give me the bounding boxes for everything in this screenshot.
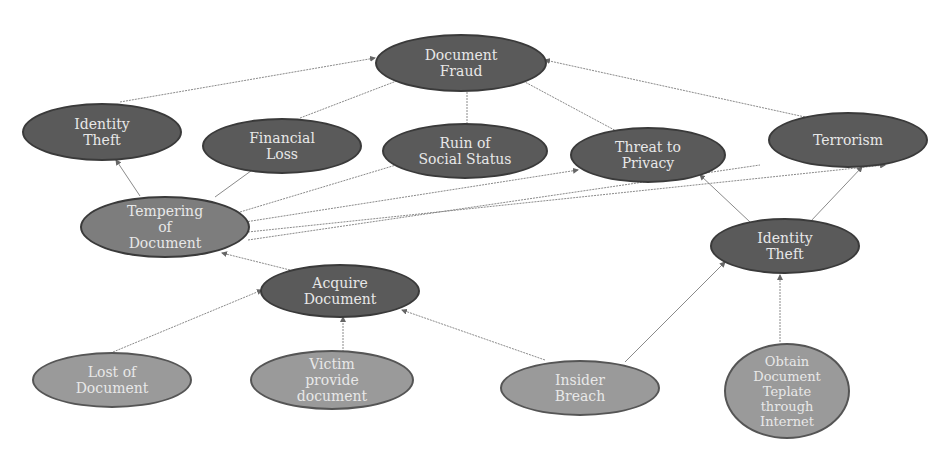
node-obtain-template[interactable]: Obtain Document Teplate through Internet bbox=[724, 343, 850, 439]
edge-threat-to-fraud bbox=[510, 74, 620, 133]
node-label: Lost of Document bbox=[76, 364, 149, 396]
edge-acquire-to-tempering bbox=[222, 253, 290, 270]
node-document-fraud[interactable]: Document Fraud bbox=[375, 34, 547, 92]
node-threat-privacy[interactable]: Threat to Privacy bbox=[570, 127, 726, 183]
edge-tempering-to-financial bbox=[215, 168, 255, 197]
node-lost-document[interactable]: Lost of Document bbox=[32, 352, 192, 408]
node-label: Victim provide document bbox=[297, 356, 367, 404]
node-tempering-document[interactable]: Tempering of Document bbox=[80, 196, 250, 258]
node-label: Threat to Privacy bbox=[615, 139, 681, 171]
edge-insider-to-acquire bbox=[402, 310, 545, 360]
node-label: Obtain Document Teplate through Internet bbox=[753, 354, 821, 429]
node-label: Acquire Document bbox=[304, 275, 377, 307]
node-terrorism[interactable]: Terrorism bbox=[768, 112, 928, 168]
node-label: Terrorism bbox=[813, 132, 883, 148]
node-victim-provide[interactable]: Victim provide document bbox=[250, 350, 414, 410]
edge-identity-mid-to-terrorism bbox=[810, 167, 862, 222]
edge-tempering-to-identity bbox=[116, 160, 140, 196]
node-identity-theft-top[interactable]: Identity Theft bbox=[22, 103, 182, 161]
node-label: Ruin of Social Status bbox=[418, 135, 511, 167]
edge-terrorism-to-fraud bbox=[545, 60, 805, 117]
node-financial-loss[interactable]: Financial Loss bbox=[202, 118, 362, 174]
edge-identity-mid-to-threat bbox=[700, 175, 750, 222]
node-label: Tempering of Document bbox=[127, 203, 203, 251]
edge-insider-to-identity-mid bbox=[625, 262, 725, 362]
node-ruin-social-status[interactable]: Ruin of Social Status bbox=[382, 123, 548, 179]
edge-lost-to-acquire bbox=[113, 290, 262, 352]
node-label: Document Fraud bbox=[425, 47, 498, 79]
node-label: Identity Theft bbox=[757, 230, 812, 262]
node-insider-breach[interactable]: Insider Breach bbox=[500, 360, 660, 416]
node-identity-theft-mid[interactable]: Identity Theft bbox=[710, 218, 860, 274]
node-label: Financial Loss bbox=[249, 130, 315, 162]
node-acquire-document[interactable]: Acquire Document bbox=[260, 264, 420, 318]
node-label: Identity Theft bbox=[74, 116, 129, 148]
node-label: Insider Breach bbox=[555, 372, 605, 404]
edge-tempering-to-threat bbox=[245, 170, 578, 222]
edge-identity-theft-to-fraud bbox=[120, 58, 375, 102]
